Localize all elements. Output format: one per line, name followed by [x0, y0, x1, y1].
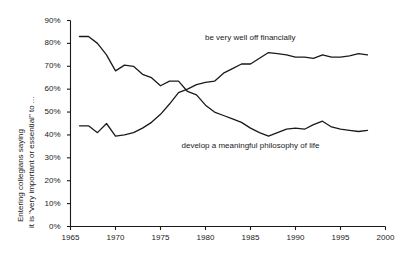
tick-marks	[67, 21, 386, 231]
series-line-1	[80, 37, 368, 137]
series-annotation-financially: be very well off financially	[205, 33, 296, 42]
axis-spine	[71, 21, 386, 227]
axis-lines	[71, 21, 386, 227]
chart-container: Entering collegians saying it is "very i…	[0, 0, 412, 263]
series-line-0	[80, 53, 368, 137]
series-annotation-philosophy: develop a meaningful philosophy of life	[182, 141, 320, 150]
series-lines	[80, 37, 368, 137]
